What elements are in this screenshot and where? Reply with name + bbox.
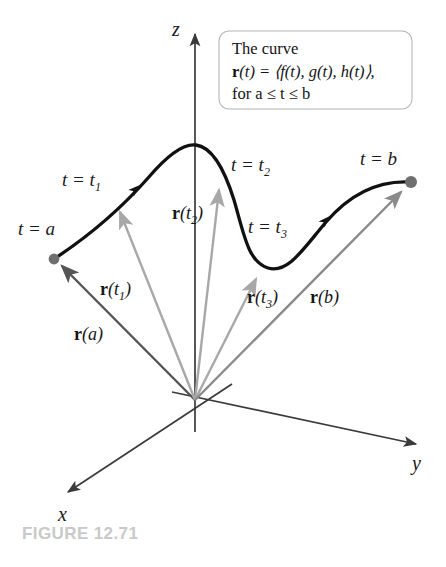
label-t-equals-t2: t = t2 (231, 154, 270, 179)
z-axis-label: z (171, 18, 180, 40)
label-t-equals-a: t = a (18, 218, 55, 239)
vector-r-t1 (120, 212, 195, 400)
callout-line-3: for a ≤ t ≤ b (232, 84, 310, 103)
vector-function-diagram: z y x t = a t = t1 (0, 0, 446, 567)
label-t-equals-b: t = b (360, 148, 397, 169)
vector-label-r-t2: r(t2) (172, 203, 203, 227)
vector-labels-group: r(a) r(t1) r(t2) r(t3) r(b) (74, 203, 339, 345)
x-axis (68, 384, 232, 492)
callout-line-1: The curve (232, 39, 298, 58)
vector-r-b (195, 192, 401, 400)
endpoint-dot-b (405, 176, 417, 188)
x-axis-label: x (57, 503, 67, 525)
label-t-equals-t3: t = t3 (248, 216, 287, 241)
y-axis-label: y (410, 452, 421, 475)
endpoint-dot-a (49, 254, 60, 265)
vector-label-r-a: r(a) (74, 324, 103, 345)
vector-label-r-t1: r(t1) (100, 279, 131, 303)
parameter-labels-group: t = a t = t1 t = t2 t = t3 t = b (18, 148, 397, 241)
figure-caption: FIGURE 12.71 (22, 524, 138, 544)
figure-container: z y x t = a t = t1 (0, 0, 446, 567)
vector-label-r-t3: r(t3) (247, 287, 278, 311)
callout-group: The curve r(t) = ⟨f(t), g(t), h(t)⟩, for… (219, 31, 412, 109)
callout-line-2: r(t) = ⟨f(t), g(t), h(t)⟩, (232, 62, 375, 81)
label-t-equals-t1: t = t1 (62, 169, 101, 194)
vector-label-r-b: r(b) (310, 287, 339, 308)
